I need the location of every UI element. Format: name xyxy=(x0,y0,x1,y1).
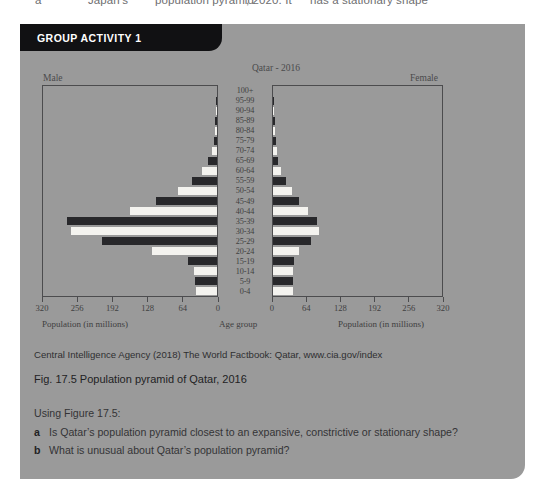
pyramid-bar-row xyxy=(43,166,217,176)
pyramid-bar xyxy=(273,227,319,234)
axis-tick-label: 192 xyxy=(106,303,119,313)
pyramid-bar-row xyxy=(43,176,217,186)
running-text-fragment-e: has a stationary shape xyxy=(310,0,428,6)
pyramid-bar xyxy=(273,207,308,214)
pyramid-bar-row xyxy=(273,176,442,186)
pyramid-bar xyxy=(273,247,299,254)
pyramid-bar-row xyxy=(273,276,442,286)
pyramid-bar xyxy=(273,197,299,204)
axis-tick-label: 256 xyxy=(71,303,84,313)
age-group-label: 20-24 xyxy=(218,247,272,257)
age-group-label: 65-69 xyxy=(218,156,272,166)
pyramid-bar xyxy=(273,107,274,114)
male-panel-label: Male xyxy=(43,73,63,83)
population-pyramid-chart: Qatar - 2016 Male Female 100+95-9990-948… xyxy=(20,51,525,343)
figure-block: Qatar - 2016 Male Female 100+95-9990-948… xyxy=(20,51,525,479)
age-group-label: 10-14 xyxy=(218,267,272,277)
pyramid-bar xyxy=(102,237,217,244)
pyramid-bar-row xyxy=(273,236,442,246)
axis-tick xyxy=(182,297,183,302)
age-group-label: 15-19 xyxy=(218,257,272,267)
pyramid-bar-row xyxy=(43,256,217,266)
pyramid-bar-row xyxy=(43,146,217,156)
age-group-label: 90-94 xyxy=(218,105,272,115)
age-group-label: 45-49 xyxy=(218,196,272,206)
pyramid-bar-row xyxy=(273,196,442,206)
pyramid-bar xyxy=(273,217,317,224)
pyramid-bar xyxy=(130,207,217,214)
pyramid-bar-row xyxy=(273,156,442,166)
group-activity-panel: GROUP ACTIVITY 1 Qatar - 2016 Male Femal… xyxy=(20,24,525,479)
age-group-label: 50-54 xyxy=(218,186,272,196)
pyramid-bar xyxy=(196,287,217,294)
age-group-label: 75-79 xyxy=(218,135,272,145)
questions-list: Using Figure 17.5: aIs Qatar’s populatio… xyxy=(34,407,514,462)
pyramid-bar-row xyxy=(43,226,217,236)
figure-source-line: Central Intelligence Agency (2018) The W… xyxy=(34,349,382,360)
age-group-label: 100+ xyxy=(218,85,272,95)
pyramid-bar-row xyxy=(273,186,442,196)
pyramid-bar xyxy=(273,97,274,104)
pyramid-bar-row xyxy=(43,96,217,106)
pyramid-bar-row xyxy=(273,226,442,236)
axis-tick-label: 320 xyxy=(36,303,49,313)
axis-tick-label: 64 xyxy=(179,303,188,313)
pyramid-bar-row xyxy=(43,86,217,96)
female-x-axis: 064128192256320 xyxy=(272,297,443,317)
pyramid-bar xyxy=(71,227,217,234)
pyramid-bar-row xyxy=(273,166,442,176)
pyramid-bar-row xyxy=(273,106,442,116)
pyramid-bar xyxy=(195,277,217,284)
pyramid-bar xyxy=(192,177,217,184)
age-group-label: 80-84 xyxy=(218,125,272,135)
axis-tick xyxy=(374,297,375,302)
pyramid-bar-row xyxy=(273,206,442,216)
age-group-label: 85-89 xyxy=(218,115,272,125)
pyramid-bar xyxy=(273,187,292,194)
axis-tick xyxy=(147,297,148,302)
age-group-label: 40-44 xyxy=(218,206,272,216)
age-group-axis: 100+95-9990-9485-8980-8475-7970-7465-696… xyxy=(218,85,272,297)
axis-tick xyxy=(306,297,307,302)
age-group-label: 70-74 xyxy=(218,146,272,156)
pyramid-bar-row xyxy=(43,106,217,116)
pyramid-bar xyxy=(178,187,217,194)
axis-tick xyxy=(272,297,273,302)
pyramid-bar xyxy=(273,257,294,264)
pyramid-bar xyxy=(212,147,217,154)
question-text: Is Qatar’s population pyramid closest to… xyxy=(49,426,458,438)
pyramid-bar xyxy=(216,97,217,104)
activity-banner: GROUP ACTIVITY 1 xyxy=(20,24,222,51)
question-item: bWhat is unusual about Qatar’s populatio… xyxy=(34,444,514,456)
running-text-fragment-b: Japan's xyxy=(88,0,128,6)
question-marker: a xyxy=(34,426,49,438)
male-plot-area xyxy=(42,85,218,297)
pyramid-bar-row xyxy=(43,266,217,276)
question-text: What is unusual about Qatar’s population… xyxy=(49,444,289,456)
pyramid-bar-row xyxy=(273,146,442,156)
pyramid-bar-row xyxy=(273,126,442,136)
pyramid-bar-row xyxy=(273,266,442,276)
pyramid-bar-row xyxy=(273,136,442,146)
question-item: aIs Qatar’s population pyramid closest t… xyxy=(34,426,514,438)
axis-tick-label: 0 xyxy=(270,303,274,313)
pyramid-bar xyxy=(273,167,281,174)
axis-tick xyxy=(443,297,444,302)
pyramid-bar xyxy=(188,257,217,264)
questions-intro: Using Figure 17.5: xyxy=(34,407,514,419)
pyramid-bar xyxy=(215,127,217,134)
pyramid-bar-row xyxy=(43,186,217,196)
pyramid-bar xyxy=(67,217,217,224)
axis-tick xyxy=(112,297,113,302)
chart-title: Qatar - 2016 xyxy=(226,63,326,73)
age-group-label: 35-39 xyxy=(218,216,272,226)
question-marker: b xyxy=(34,444,49,456)
figure-caption: Fig. 17.5 Population pyramid of Qatar, 2… xyxy=(34,373,247,385)
age-group-label: 60-64 xyxy=(218,166,272,176)
pyramid-bar xyxy=(273,177,286,184)
running-text-fragment-a: a xyxy=(35,0,42,6)
pyramid-bar-row xyxy=(273,96,442,106)
age-group-label: 25-29 xyxy=(218,236,272,246)
pyramid-bar xyxy=(194,267,217,274)
axis-tick-label: 320 xyxy=(437,303,450,313)
